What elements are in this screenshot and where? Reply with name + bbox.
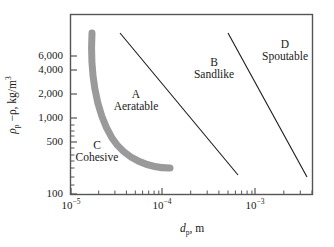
region-label-c: C Cohesive <box>76 139 119 163</box>
region-label-d: D Spoutable <box>262 38 308 62</box>
xtick-label-1e-4: 10−4 <box>153 200 172 212</box>
y-axis-title-wrapper: ρp −ρ, kg/m3 <box>6 15 26 195</box>
xtick-mantissa-1e-4: 10 <box>153 199 164 211</box>
xtick-exponent-1e-4: −4 <box>164 197 172 206</box>
region-d-letter: D <box>262 38 308 50</box>
y-axis-title-rho: ρ <box>6 128 18 134</box>
region-c-letter: C <box>76 139 119 151</box>
region-d-name: Spoutable <box>262 50 308 62</box>
region-a-name: Aeratable <box>114 100 159 112</box>
y-axis-title: ρp −ρ, kg/m3 <box>6 15 18 195</box>
xtick-mantissa-1e-5: 10 <box>62 199 73 211</box>
region-label-a: A Aeratable <box>114 88 159 112</box>
xtick-exponent-1e-3: −3 <box>257 197 265 206</box>
region-a-letter: A <box>114 88 159 100</box>
y-axis-title-rest: −ρ, kg/m <box>6 80 18 125</box>
geldart-classification-chart: 6,000 4,000 2,000 1,000 500 100 ρp −ρ, k… <box>0 0 334 247</box>
xtick-label-1e-3: 10−3 <box>246 200 265 212</box>
x-axis-title-unit: , m <box>189 222 204 234</box>
region-c-name: Cohesive <box>76 151 119 163</box>
region-b-letter: B <box>194 56 234 68</box>
xtick-label-1e-5: 10−5 <box>62 200 81 212</box>
x-axis-title: dp, m <box>180 222 204 234</box>
xtick-exponent-1e-5: −5 <box>73 197 81 206</box>
region-b-name: Sandlike <box>194 68 234 80</box>
y-axis-title-exponent: 3 <box>4 76 13 80</box>
region-label-b: B Sandlike <box>194 56 234 80</box>
xtick-mantissa-1e-3: 10 <box>246 199 257 211</box>
y-axis-title-rho-sub: p <box>12 124 21 128</box>
